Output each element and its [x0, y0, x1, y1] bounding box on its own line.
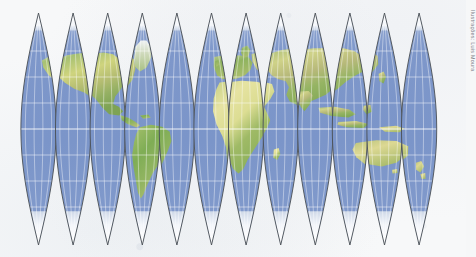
landmass — [223, 45, 233, 57]
landmass — [228, 59, 232, 66]
landmass — [257, 45, 268, 57]
illustration-credit: Ilustrações: Luis Moura — [464, 10, 476, 90]
